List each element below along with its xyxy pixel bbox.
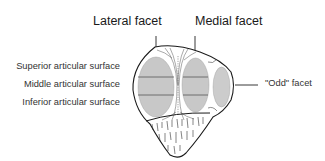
patella-illustration — [0, 0, 325, 161]
lateral-facet — [138, 57, 174, 117]
odd-facet — [213, 67, 230, 107]
medial-facet — [182, 58, 209, 112]
